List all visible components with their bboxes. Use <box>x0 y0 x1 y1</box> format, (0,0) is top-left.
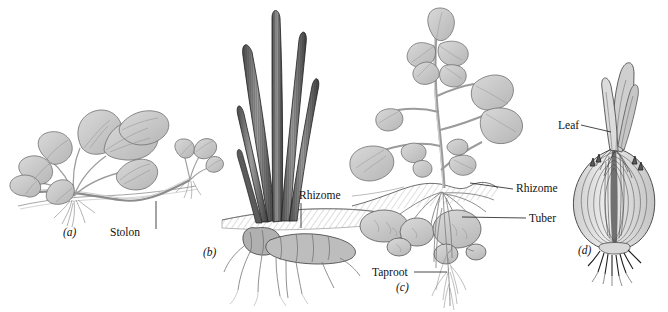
panel-id-c: (c) <box>396 281 409 294</box>
panel-a-daughter-plantlet <box>175 139 224 199</box>
label-rhizome-b: Rhizome <box>299 189 341 201</box>
panel-d-basal-roots <box>588 243 641 287</box>
panel-c-potato: Rhizome Tuber Taproot (c) <box>350 8 558 310</box>
label-tuber: Tuber <box>529 212 556 224</box>
panel-id-a: (a) <box>63 226 77 239</box>
panel-b-rhizome <box>224 227 360 306</box>
figure-plant-modified-stems: Stolon (a) <box>0 0 668 312</box>
panel-id-b: (b) <box>203 246 217 259</box>
panel-a-strawberry: Stolon (a) <box>10 110 224 239</box>
illustration-canvas: Stolon (a) <box>0 0 668 312</box>
panel-c-tubers <box>360 210 486 264</box>
panel-d-onion: Leaf (d) <box>558 63 655 286</box>
label-leaf: Leaf <box>558 119 579 131</box>
label-rhizome-c: Rhizome <box>516 182 558 194</box>
panel-id-d: (d) <box>578 244 592 257</box>
label-taproot: Taproot <box>372 266 408 279</box>
label-stolon: Stolon <box>110 226 140 238</box>
panel-a-leaves <box>10 110 169 204</box>
